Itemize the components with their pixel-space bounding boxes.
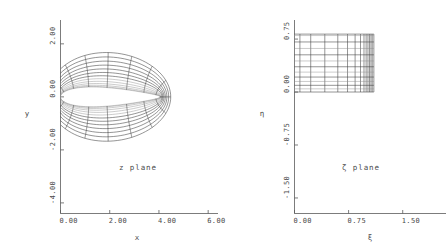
zeta-plane-y-axis-title: η — [260, 109, 265, 118]
panel-z-plane: 0.002.004.006.00 -4.00-2.000.002.00 x y … — [25, 20, 226, 242]
z-mesh-spoke — [85, 55, 89, 87]
x-tick-label: 0.00 — [294, 217, 312, 225]
z-plane-mesh — [61, 53, 171, 142]
zeta-plane-x-axis-title: ξ — [368, 233, 373, 242]
z-mesh-arc — [61, 85, 161, 108]
z-mesh-arc — [61, 57, 169, 137]
x-tick-label: 0.00 — [60, 217, 78, 225]
z-mesh-arc — [61, 69, 164, 125]
y-tick-label: -2.00 — [50, 128, 58, 151]
z-plane-annotation: z plane — [119, 163, 157, 172]
z-mesh-arc — [61, 61, 167, 133]
zeta-plane-annotation: ζ plane — [342, 163, 380, 172]
z-plane-x-ticks — [61, 210, 209, 214]
zeta-plane-x-ticks — [295, 210, 403, 214]
x-tick-label: 6.00 — [207, 217, 225, 225]
x-tick-label: 0.75 — [348, 217, 366, 225]
y-tick-label: -1.50 — [284, 176, 292, 199]
y-tick-label: 2.00 — [50, 26, 58, 44]
zeta-plane-x-tick-labels: 0.000.751.50 — [294, 217, 421, 225]
zeta-plane-y-ticks — [295, 39, 299, 198]
y-tick-label: 0.75 — [284, 22, 292, 40]
y-tick-label: -0.75 — [284, 123, 292, 146]
z-mesh-arc — [61, 72, 163, 121]
zeta-plane-y-tick-labels: -1.50-0.750.000.75 — [284, 22, 292, 199]
z-plane-x-tick-labels: 0.002.004.006.00 — [60, 217, 226, 225]
panel-zeta-plane: 0.000.751.50 -1.50-0.750.000.75 ξ η ζ pl… — [260, 20, 446, 242]
x-tick-label: 1.50 — [402, 217, 420, 225]
x-tick-label: 2.00 — [109, 217, 127, 225]
z-plane-x-axis-title: x — [135, 233, 140, 242]
z-mesh-spoke — [85, 107, 89, 139]
y-tick-label: 0.00 — [50, 79, 58, 97]
x-tick-label: 4.00 — [158, 217, 176, 225]
z-mesh-arc — [61, 65, 166, 128]
z-mesh-arc — [61, 86, 161, 107]
z-plane-y-axis-title: y — [25, 109, 30, 118]
y-tick-label: -4.00 — [50, 181, 58, 204]
conformal-mapping-figure: 0.002.004.006.00 -4.00-2.000.002.00 x y … — [0, 0, 446, 251]
z-mesh-spoke — [107, 53, 108, 88]
zeta-plane-mesh — [295, 34, 374, 92]
y-tick-label: 0.00 — [284, 75, 292, 93]
z-mesh-spoke — [107, 106, 108, 141]
z-plane-y-tick-labels: -4.00-2.000.002.00 — [50, 26, 58, 204]
